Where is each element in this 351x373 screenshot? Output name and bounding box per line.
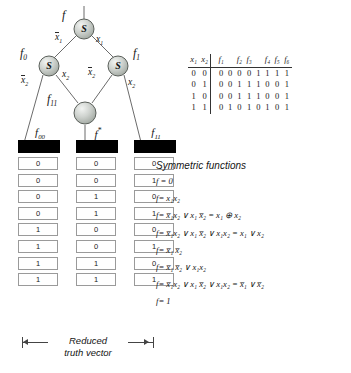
bracket-tick-right	[153, 337, 154, 348]
label-f0: f0	[20, 46, 27, 62]
cell-value: 0	[272, 91, 282, 103]
truth-table-grid: x₁ x₂ f₁ f₂ f₃ f₄ f₅ f₆ 0 0	[188, 54, 292, 114]
col-header-f1: f₁	[216, 54, 226, 67]
col-header-f6: f₆	[282, 54, 292, 67]
cell-value: 0	[226, 67, 235, 79]
symmetric-function-rhs: x̅₁x₂ ∨ x₁ x̅₂ = x₁ ⊕ x₂	[166, 210, 241, 220]
label-f1: f1	[133, 46, 140, 62]
symmetric-function-lhs: f=	[156, 296, 164, 306]
vector-column-f00-label: f00	[18, 126, 62, 140]
edge-label-root-left: x1	[55, 32, 62, 44]
bit-cell[interactable]: 1	[76, 273, 116, 286]
bit-cell[interactable]: 0	[18, 174, 58, 187]
symmetric-function-lhs: f=	[156, 228, 164, 238]
symmetric-function-row: f= 1	[156, 296, 351, 307]
cell-value: 0	[216, 79, 226, 91]
edge-label-root-right: x1	[96, 34, 103, 46]
symmetric-function-lhs: f=	[156, 279, 164, 289]
bit-cell[interactable]: 1	[76, 257, 116, 270]
bracket-caption-line1: Reduced	[48, 335, 128, 347]
bit-cell[interactable]: 0	[76, 157, 116, 170]
cell-value: 0	[272, 79, 282, 91]
col-header-f2: f₂	[235, 54, 245, 67]
symmetric-function-rhs: x̅₁ x̅₂	[166, 245, 182, 255]
table-row: 1 1 0 1 0 1 0 1 0 1	[188, 102, 292, 114]
bit-cell[interactable]: 0	[18, 207, 58, 220]
cell-value: 0	[216, 102, 226, 114]
bit-cell[interactable]: 1	[18, 223, 58, 236]
bit-cell[interactable]: 1	[76, 190, 116, 203]
vector-cap-fstar	[76, 140, 118, 153]
table-header-row: x₁ x₂ f₁ f₂ f₃ f₄ f₅ f₆	[188, 54, 292, 67]
symmetric-function-rhs: x̅₁x₂ ∨ x₁ x̅₂ ∨ x₁x₂ = x₁ ∨ x₂	[166, 228, 264, 238]
bit-cell[interactable]: 1	[76, 207, 116, 220]
bit-cell[interactable]: 1	[18, 273, 58, 286]
table-row: 0 1 0 0 1 1 1 0 0 1	[188, 79, 292, 91]
cell-value: 0	[254, 102, 263, 114]
symmetric-function-row: f= x̅₁ x̅₂ ∨ x₁x₂	[156, 262, 351, 273]
table-row: 1 0 0 0 1 1 1 0 0 1	[188, 91, 292, 103]
col-header-spacer-1	[226, 54, 235, 67]
cell-value: 1	[282, 91, 292, 103]
symmetric-function-lhs: f=	[156, 245, 164, 255]
cell-x2: 1	[199, 102, 211, 114]
cell-value: 1	[235, 79, 245, 91]
figure-canvas: S S S f f0 f1 f11 x1 x1 x2 x2 x2 x2 f00 …	[0, 0, 351, 373]
edge-label-right-down-left: x2	[88, 67, 95, 79]
vector-column-f11-label: f11	[134, 126, 178, 140]
cell-value: 0	[226, 91, 235, 103]
col-header-spacer-2	[254, 54, 263, 67]
edge-label-right-down-right: x2	[128, 77, 135, 89]
reduced-truth-vector-columns: f00 0 0 0 0 1 1 1 1 f* 0 0 1 1 0 0 1 1 f…	[18, 140, 158, 355]
bracket-caption-line2: truth vector	[48, 347, 128, 359]
cell-x1: 1	[188, 91, 199, 103]
reduced-truth-vector-bracket: Reduced truth vector	[18, 336, 158, 370]
cell-x1: 0	[188, 67, 199, 79]
cell-value: 1	[254, 91, 263, 103]
col-header-f3: f₃	[244, 54, 254, 67]
edge-label-left-down-left: x2	[21, 75, 28, 87]
bracket-arrow-left-icon	[23, 339, 28, 345]
table-row: 0 0 0 0 0 0 1 1 1 1	[188, 67, 292, 79]
cell-value: 0	[244, 67, 254, 79]
vector-cap-f11	[134, 140, 176, 153]
cell-value: 1	[282, 102, 292, 114]
cell-value: 0	[216, 91, 226, 103]
cell-value: 0	[263, 79, 273, 91]
symmetric-function-row: f= x̅₁x₂ ∨ x₁ x̅₂ ∨ x₁x₂ = x̅₁ ∨ x̅₂	[156, 279, 351, 290]
bit-cell[interactable]: 1	[18, 257, 58, 270]
cell-x2: 0	[199, 91, 211, 103]
bit-cell[interactable]: 0	[18, 190, 58, 203]
cell-value: 1	[282, 79, 292, 91]
bit-cell[interactable]: 0	[76, 240, 116, 253]
symmetric-functions-panel: Symmetric functions f = 0 f= x₁x₂ f= x̅₁…	[156, 160, 351, 314]
cell-value: 1	[254, 67, 263, 79]
vector-cap-f00	[18, 140, 60, 153]
cell-x2: 0	[199, 67, 211, 79]
cell-value: 1	[235, 91, 245, 103]
symmetric-function-rhs: x̅₁ x̅₂ ∨ x₁x₂	[166, 262, 206, 272]
bit-cell[interactable]: 0	[18, 157, 58, 170]
symmetric-function-lhs: f=	[156, 193, 164, 203]
symmetric-function-row: f= x̅₁x₂ ∨ x₁ x̅₂ ∨ x₁x₂ = x₁ ∨ x₂	[156, 228, 351, 239]
cell-value: 1	[263, 102, 273, 114]
cell-x2: 1	[199, 79, 211, 91]
symmetric-function-rhs: 0	[169, 176, 173, 186]
col-header-x2: x₂	[199, 54, 211, 67]
vector-column-f00: f00 0 0 0 0 1 1 1 1	[18, 140, 62, 290]
bit-cell[interactable]: 1	[18, 240, 58, 253]
col-header-f5: f₅	[272, 54, 282, 67]
symmetric-function-row: f= x̅₁ x̅₂	[156, 245, 351, 256]
label-f11-node: f11	[47, 92, 57, 108]
bit-cell[interactable]: 0	[76, 223, 116, 236]
bracket-arrow-right-icon	[144, 339, 149, 345]
vector-column-fstar-label: f*	[76, 126, 120, 140]
symmetric-function-rhs: 1	[166, 296, 170, 306]
cell-x1: 0	[188, 79, 199, 91]
symmetric-function-rhs: x̅₁x₂ ∨ x₁ x̅₂ ∨ x₁x₂ = x̅₁ ∨ x̅₂	[166, 279, 264, 289]
symmetric-function-row: f= x̅₁x₂ ∨ x₁ x̅₂ = x₁ ⊕ x₂	[156, 210, 351, 221]
truth-table: x₁ x₂ f₁ f₂ f₃ f₄ f₅ f₆ 0 0	[188, 54, 292, 114]
cell-value: 1	[282, 67, 292, 79]
cell-x1: 1	[188, 102, 199, 114]
bit-cell[interactable]: 0	[76, 174, 116, 187]
